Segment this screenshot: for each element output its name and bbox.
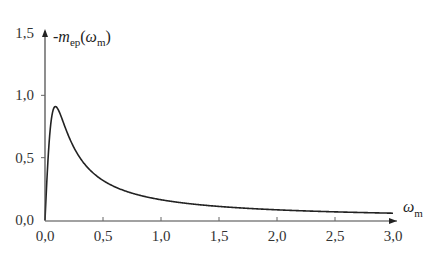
y-tick-label: 0,5: [15, 150, 34, 166]
x-axis-arrow-icon: [389, 218, 397, 224]
y-axis-title: -mep(ωm): [53, 28, 111, 48]
x-tick-label: 0,5: [94, 228, 113, 244]
y-axis-arrow-icon: [42, 29, 48, 37]
x-axis-title: ωm: [403, 198, 423, 219]
plot-area: [45, 107, 393, 220]
x-tick-label: 1,0: [152, 228, 171, 244]
ticks: [41, 95, 335, 221]
axis-labels: 0,00,51,01,52,02,53,00,00,51,01,5-mep(ωm…: [15, 25, 423, 244]
y-tick-label: 0,0: [15, 212, 34, 228]
x-tick-label: 2,5: [326, 228, 345, 244]
series-line: [45, 107, 393, 220]
x-tick-label: 2,0: [268, 228, 287, 244]
y-tick-label: 1,0: [15, 87, 34, 103]
chart: 0,00,51,01,52,02,53,00,00,51,01,5-mep(ωm…: [0, 0, 438, 261]
axes: [42, 29, 397, 224]
x-tick-label: 1,5: [210, 228, 229, 244]
x-tick-label: 0,0: [36, 228, 55, 244]
y-tick-label: 1,5: [15, 25, 34, 41]
x-tick-label: 3,0: [384, 228, 403, 244]
